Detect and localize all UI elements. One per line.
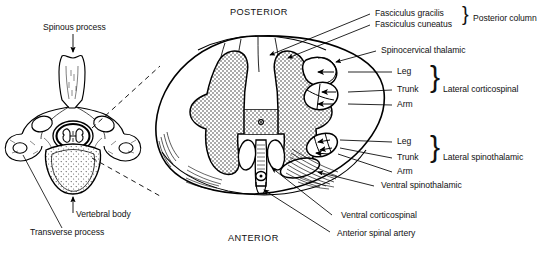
label-lower-trunk: Trunk: [397, 153, 418, 162]
label-upper-trunk: Trunk: [397, 85, 418, 94]
label-lower-leg: Leg: [397, 137, 411, 146]
label-ventral-spinothalamic: Ventral spinothalamic: [381, 181, 462, 190]
label-lateral-spinothalamic: Lateral spinothalamic: [443, 153, 523, 162]
brace-lateral-spinothalamic: }: [430, 132, 440, 162]
label-spinocervical-thalamic: Spinocervical thalamic: [381, 46, 465, 55]
label-fasciculus-cuneatus: Fasciculus cuneatus: [375, 20, 452, 29]
label-upper-arm: Arm: [397, 100, 413, 109]
label-anterior: ANTERIOR: [228, 234, 279, 243]
label-transverse-process: Transverse process: [30, 228, 104, 237]
brace-posterior-column: }: [462, 4, 469, 24]
label-posterior-column: Posterior column: [473, 14, 537, 23]
spinal-cord-cross-section: [156, 36, 384, 195]
label-fasciculus-gracilis: Fasciculus gracilis: [375, 9, 444, 18]
label-lateral-corticospinal: Lateral corticospinal: [443, 85, 518, 94]
anterior-median-fissure: [255, 140, 267, 194]
label-vertebral-body: Vertebral body: [76, 210, 131, 219]
label-ventral-corticospinal: Ventral corticospinal: [341, 211, 417, 220]
label-posterior: POSTERIOR: [230, 8, 288, 17]
figure-canvas: Spinous process Vertebral body Transvers…: [0, 0, 552, 260]
brace-lateral-corticospinal: }: [430, 62, 440, 92]
label-upper-leg: Leg: [397, 67, 411, 76]
label-lower-arm: Arm: [397, 167, 413, 176]
anatomy-linework: [0, 0, 552, 260]
vertebra-drawing: [5, 55, 141, 194]
label-anterior-spinal-artery: Anterior spinal artery: [337, 229, 415, 238]
label-spinous-process: Spinous process: [43, 23, 106, 32]
